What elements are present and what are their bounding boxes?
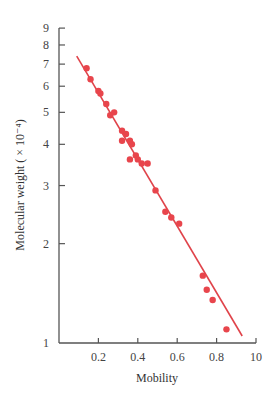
x-tick-label: 0.4	[130, 350, 145, 364]
chart: 0.20.40.60.810123456789 Mobility Molecul…	[0, 0, 274, 405]
data-point	[97, 90, 103, 96]
fit-line-segment	[77, 56, 242, 336]
y-axis-title: Molecular weight ( × 10⁻⁴)	[13, 119, 27, 250]
y-tick-label: 4	[43, 137, 49, 151]
data-point	[144, 160, 150, 166]
data-point	[103, 101, 109, 107]
x-tick-label: 10	[250, 350, 262, 364]
data-point	[127, 156, 133, 162]
x-axis-title: Mobility	[136, 371, 178, 385]
data-point	[168, 214, 174, 220]
y-tick-label: 5	[43, 105, 49, 119]
y-tick-label: 3	[43, 179, 49, 193]
x-tick-label: 0.6	[170, 350, 185, 364]
data-point	[176, 220, 182, 226]
data-point	[111, 109, 117, 115]
data-point	[204, 287, 210, 293]
y-tick-label: 2	[43, 237, 49, 251]
y-tick-label: 8	[43, 38, 49, 52]
x-tick-label: 0.8	[209, 350, 224, 364]
data-point	[162, 208, 168, 214]
data-point	[123, 131, 129, 137]
data-point	[129, 141, 135, 147]
data-point	[209, 297, 215, 303]
data-point	[223, 326, 229, 332]
y-tick-label: 6	[43, 79, 49, 93]
data-point	[200, 272, 206, 278]
x-tick-label: 0.2	[91, 350, 106, 364]
data-point	[83, 65, 89, 71]
data-point	[119, 138, 125, 144]
data-point	[152, 187, 158, 193]
fit-line	[77, 56, 242, 336]
y-tick-label: 9	[43, 21, 49, 35]
data-point	[139, 160, 145, 166]
data-point	[87, 76, 93, 82]
y-tick-label: 7	[43, 57, 49, 71]
y-tick-label: 1	[43, 336, 49, 350]
data-points	[83, 65, 229, 332]
